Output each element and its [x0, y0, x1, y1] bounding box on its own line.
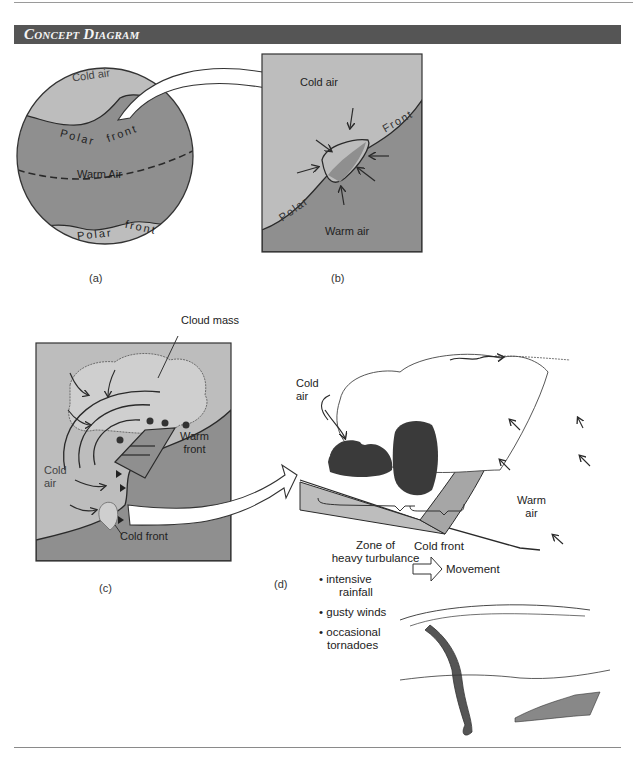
label-d-movement: Movement	[446, 563, 500, 576]
bottom-rule	[14, 747, 621, 748]
bullet-item: • occasional	[319, 626, 386, 639]
bullet-list: • intensive rainfall • gusty winds • occ…	[319, 573, 386, 652]
label-d-cold-front: Cold front	[414, 540, 464, 553]
panel-letter-c: (c)	[99, 582, 112, 594]
label-c-cold-front: Cold front	[120, 530, 168, 542]
label-b-cold-air: Cold air	[300, 76, 338, 88]
label-c-warm-front: Warmfront	[180, 430, 209, 456]
bullet-item: • intensive	[319, 573, 386, 586]
label-a-warm-air: Warm Air	[77, 168, 122, 180]
label-d-zone-line1: Zone of	[356, 539, 395, 551]
bullet-item: • gusty winds	[319, 606, 386, 619]
label-d-cold-air-line2: air	[296, 390, 308, 402]
label-d-warm-air-line2: air	[525, 507, 537, 519]
bullet-item-cont: tornadoes	[319, 639, 386, 652]
label-c-cold-air-line1: Cold	[44, 464, 67, 476]
label-c-warm-front-line1: Warm	[180, 430, 209, 442]
bullet-intensive: intensive	[326, 573, 371, 585]
panel-letter-b: (b)	[331, 272, 344, 284]
label-c-warm-front-line2: front	[183, 443, 205, 455]
label-d-zone-line2: heavy turbulance	[332, 552, 420, 564]
label-d-cold-air-line1: Cold	[296, 377, 319, 389]
label-d-cold-air: Coldair	[296, 377, 319, 403]
bullet-item-cont: rainfall	[319, 586, 386, 599]
label-c-cold-air-line2: air	[44, 477, 56, 489]
label-c-cold-air: Coldair	[44, 464, 67, 490]
label-b-warm-air: Warm air	[325, 225, 369, 237]
panel-letter-a: (a)	[89, 272, 102, 284]
bullet-occasional: occasional	[326, 626, 380, 638]
bullet-gusty-winds: gusty winds	[326, 606, 386, 618]
label-d-warm-air: Warmair	[517, 494, 546, 520]
label-d-warm-air-line1: Warm	[517, 494, 546, 506]
label-c-cloud-mass: Cloud mass	[181, 314, 239, 326]
panel-letter-d: (d)	[274, 578, 287, 590]
